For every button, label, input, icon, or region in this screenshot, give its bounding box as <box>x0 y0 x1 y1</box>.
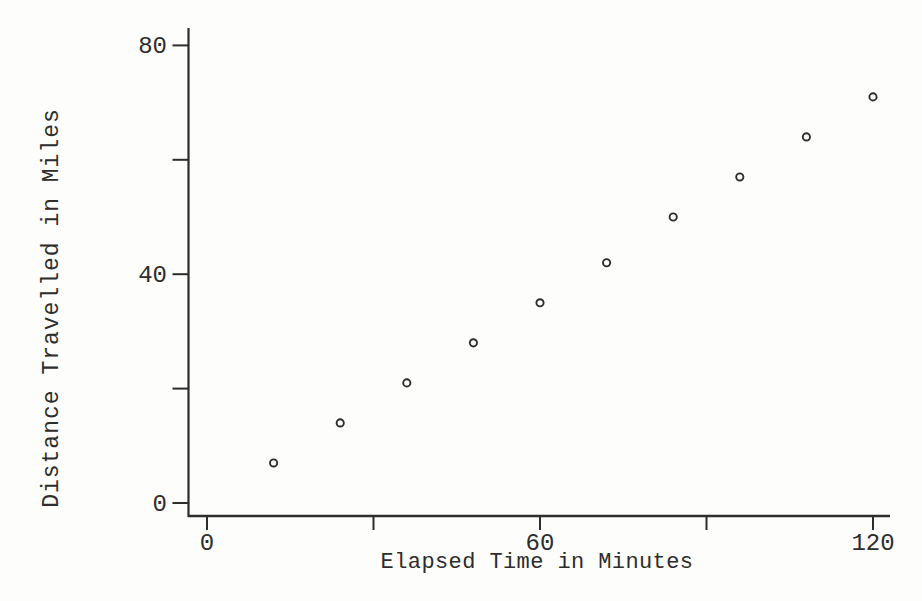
y-tick-label: 40 <box>138 262 167 289</box>
data-point <box>337 419 344 426</box>
data-point <box>736 173 743 180</box>
data-point <box>470 339 477 346</box>
data-point <box>603 259 610 266</box>
y-axis-title: Distance Travelled in Miles <box>39 108 65 508</box>
data-point <box>869 93 876 100</box>
y-tick-label: 80 <box>138 33 167 60</box>
scatter-plot-canvas: 04080060120 <box>0 0 922 601</box>
x-axis-title: Elapsed Time in Minutes <box>381 550 694 575</box>
y-tick-label: 0 <box>153 491 167 518</box>
data-point <box>270 459 277 466</box>
data-point <box>536 299 543 306</box>
x-tick-label: 0 <box>200 530 214 557</box>
x-tick-label: 120 <box>851 530 894 557</box>
data-point <box>403 379 410 386</box>
data-point <box>670 213 677 220</box>
scatterplot-figure: 04080060120 Distance Travelled in Miles … <box>0 0 922 601</box>
data-point <box>803 133 810 140</box>
